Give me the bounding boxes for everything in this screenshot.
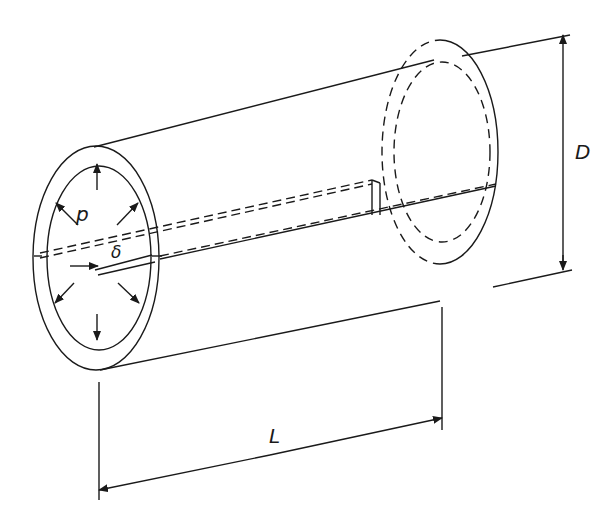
length-dimension-line	[270, 418, 442, 455]
left-inner-ellipse	[47, 166, 151, 350]
cylinder-drawing	[0, 0, 612, 521]
diagram-canvas: p δ D L	[0, 0, 612, 521]
diameter-label: D	[575, 142, 590, 162]
right-outer-hidden	[382, 40, 498, 264]
length-label: L	[269, 426, 280, 446]
thickness-label: δ	[111, 244, 121, 261]
pressure-label: p	[76, 204, 89, 224]
right-inner-hidden	[394, 62, 490, 242]
